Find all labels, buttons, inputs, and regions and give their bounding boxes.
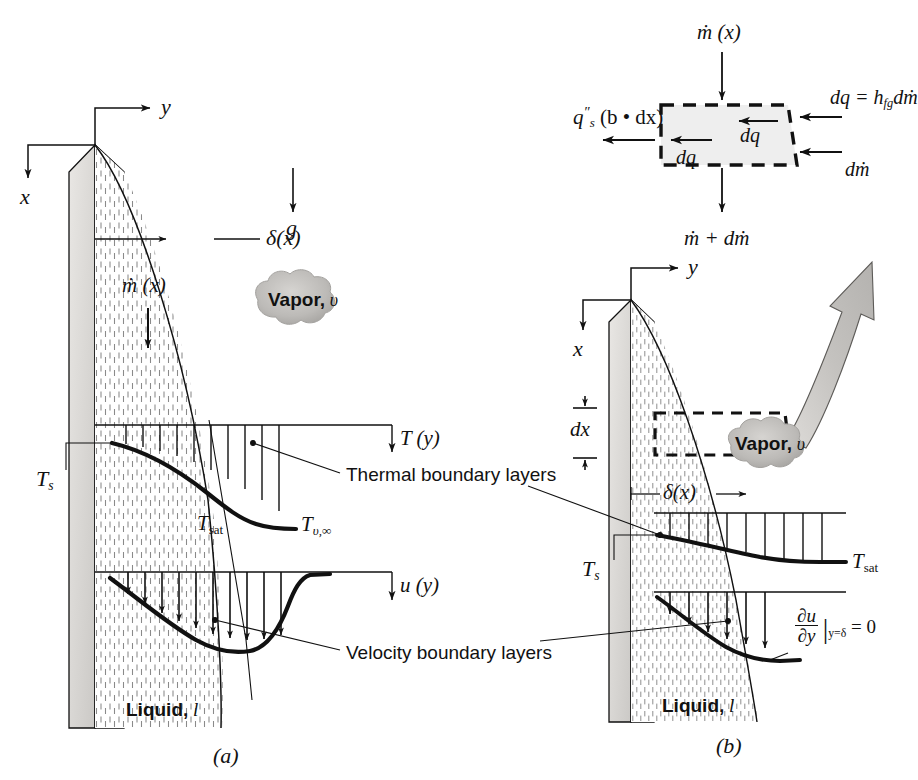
tsat-label-a: Tsat [197,513,223,536]
vapor-cloud-label-a: Vapor, υ [268,290,338,309]
panel-a-graphics [28,108,392,728]
vapor-symbol-b: υ [797,434,805,454]
liquid-symbol-a: l [193,699,198,720]
cv-latent-heat-label: dq = hfgdṁ [830,87,918,110]
panel-b-caption: (b) [716,735,742,757]
vapor-outflow-arrow-b [786,262,874,448]
vapor-cloud-label-b: Vapor, υ [735,434,805,453]
liquid-symbol-b: l [729,695,734,716]
wall-temp-label-a: Ts [36,468,54,492]
shear-fraction: ∂u ∂y [795,606,818,645]
vapor-text-b: Vapor, [735,433,792,454]
vapor-symbol-a: υ [330,290,338,310]
liquid-text-b: Liquid, [662,695,724,716]
y-axis-arrow-a [95,108,150,145]
thermal-boundary-callout: Thermal boundary layers [346,465,556,484]
cv-dmdot-label: dṁ [845,159,869,179]
cv-dq-inner-label: dq [740,125,760,145]
cv-surface-flux-label: q″s (b • dx) [573,105,663,129]
t-vapor-infinity-label-a: Tυ,∞ [301,514,331,537]
u-profile-label-a: u (y) [400,575,439,596]
velocity-callout-leader-a [213,618,340,650]
axis-label-x-a: x [20,186,30,208]
shear-condition-label-b: ∂u ∂y |y=δ = 0 [795,606,876,645]
velocity-boundary-callout: Velocity boundary layers [346,643,552,662]
panel-b-graphics [528,262,874,722]
panel-a-caption: (a) [213,745,239,767]
t-profile-label-a: T (y) [400,428,440,449]
axis-label-x-b: x [573,338,583,360]
cv-dq-left-label: dq [676,147,696,167]
cv-outflow-label: ṁ + dṁ [684,228,750,249]
dx-label-b: dx [570,419,590,440]
liquid-film-a [95,145,223,728]
mdot-label-a: ṁ (x) [122,275,166,296]
y-axis-arrow-b [631,268,678,300]
axis-label-y-a: y [161,96,171,118]
vapor-text-a: Vapor, [268,289,325,310]
liquid-film-b [631,300,758,722]
tsat-label-b: Tsat [852,551,878,574]
axis-label-y-b: y [688,256,698,278]
wall-temp-label-b: Ts [582,558,600,582]
thermal-callout-leader-a [251,441,340,473]
liquid-label-a: Liquid, l [126,700,198,719]
delta-label-a: δ(x) [266,227,301,249]
liquid-label-b: Liquid, l [662,696,734,715]
control-volume-graphics [603,52,842,212]
delta-label-b: δ(x) [663,482,696,503]
liquid-text-a: Liquid, [126,699,188,720]
cv-inflow-label: ṁ (x) [697,22,741,43]
